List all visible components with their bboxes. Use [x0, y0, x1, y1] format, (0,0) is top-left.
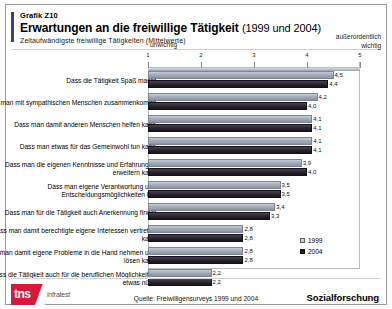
x-ticklabel-2: 2 [199, 52, 202, 58]
legend-swatch-icon-2004 [300, 249, 305, 254]
legend-label-1999: 1999 [308, 235, 322, 246]
bar-2004[interactable]: 4,4 [148, 80, 328, 88]
bar-2004[interactable]: 3,5 [148, 190, 281, 198]
footer-divider [11, 278, 381, 279]
x-tick-1 [148, 62, 149, 68]
chart-row: Dass man eigene Verantwortung und Entsch… [0, 180, 392, 202]
bar-group: 4,54,4 [148, 71, 360, 91]
page-title-main: Erwartungen an die freiwillige Tätigkeit [20, 21, 239, 35]
chart-row: Dass man etwas für das Gemeinwohl tun ka… [0, 136, 392, 158]
x-tick-5 [360, 62, 361, 68]
legend-item-2004: 2004 [300, 246, 322, 257]
x-ticklabel-5: 5 [358, 52, 361, 58]
page-title-years: (1999 und 2004) [242, 22, 321, 34]
x-ticklabel-4: 4 [305, 52, 308, 58]
bar-value-label: 4,5 [335, 72, 343, 78]
bar-1999[interactable]: 2,8 [148, 225, 243, 233]
axis-high-label-line1: außerordentlich [336, 33, 381, 42]
bar-2004[interactable]: 4,0 [148, 102, 307, 110]
bar-value-label: 4,1 [313, 125, 321, 131]
bar-value-label: 2,2 [213, 279, 221, 285]
legend: 1999 2004 [300, 235, 322, 257]
bar-2004[interactable]: 2,8 [148, 234, 243, 242]
bar-value-label: 3,5 [282, 182, 290, 188]
bar-group: 3,53,5 [148, 181, 360, 201]
bar-group: 2,22,2 [148, 269, 360, 289]
bar-1999[interactable]: 3,4 [148, 203, 275, 211]
bar-group: 3,43,3 [148, 203, 360, 223]
graphic-number: Grafik Z10 [20, 11, 58, 20]
chart-row: Dass man damit eigene Probleme in die Ha… [0, 246, 392, 268]
chart-row: Dass man die eigenen Kenntnisse und Erfa… [0, 158, 392, 180]
bar-value-label: 2,8 [244, 235, 252, 241]
brand-label: Sozialforschung [307, 292, 379, 303]
category-label: Dass man damit eigene Probleme in die Ha… [0, 249, 156, 265]
x-tick-3 [254, 62, 255, 68]
bar-2004[interactable]: 2,2 [148, 278, 212, 286]
bar-2004[interactable]: 4,1 [148, 124, 312, 132]
category-label: Dass man etwas für das Gemeinwohl tun ka… [0, 143, 156, 151]
bar-value-label: 4,0 [308, 103, 316, 109]
chart-page: Grafik Z10 Erwartungen an die freiwillig… [0, 0, 392, 309]
x-tick-4 [307, 62, 308, 68]
category-label: Dass man damit anderen Menschen helfen k… [0, 121, 156, 129]
category-label: Dass man für die Tätigkeit auch Anerkenn… [0, 209, 156, 217]
bar-group: 4,24,0 [148, 93, 360, 113]
bar-value-label: 4,1 [313, 138, 321, 144]
bar-value-label: 3,5 [282, 191, 290, 197]
chart-row: Dass man für die Tätigkeit auch Anerkenn… [0, 202, 392, 224]
bar-value-label: 3,4 [276, 204, 284, 210]
category-label: Dass man eigene Verantwortung und Entsch… [0, 183, 156, 199]
axis-high-label-line2: wichtig [336, 42, 381, 51]
header-divider [11, 49, 381, 50]
axis-high-label: außerordentlich wichtig [336, 33, 381, 50]
bar-1999[interactable]: 3,5 [148, 181, 281, 189]
chart-row: Dass man mit sympathischen Menschen zusa… [0, 92, 392, 114]
bar-value-label: 2,8 [244, 226, 252, 232]
bar-2004[interactable]: 2,8 [148, 256, 243, 264]
bar-group: 4,14,1 [148, 115, 360, 135]
bar-group: 2,82,8 [148, 225, 360, 245]
chart-row: Dass man damit berechtigte eigene Intere… [0, 224, 392, 246]
bar-1999[interactable]: 4,5 [148, 71, 334, 79]
bar-2004[interactable]: 3,3 [148, 212, 270, 220]
x-tick-2 [201, 62, 202, 68]
bar-value-label: 3,3 [271, 213, 279, 219]
bar-1999[interactable]: 2,2 [148, 269, 212, 277]
category-label: Dass man damit berechtigte eigene Intere… [0, 227, 156, 243]
category-label: Dass die Tätigkeit Spaß macht [0, 77, 156, 85]
bar-value-label: 2,2 [213, 270, 221, 276]
bar-value-label: 2,8 [244, 257, 252, 263]
bar-value-label: 4,1 [313, 116, 321, 122]
category-label: Dass man mit sympathischen Menschen zusa… [0, 99, 156, 107]
bar-value-label: 4,4 [329, 81, 337, 87]
bar-1999[interactable]: 4,1 [148, 115, 312, 123]
bar-1999[interactable]: 3,9 [148, 159, 302, 167]
bar-value-label: 4,1 [313, 147, 321, 153]
bar-1999[interactable]: 4,2 [148, 93, 318, 101]
bar-value-label: 3,9 [303, 160, 311, 166]
axis-low-label: unwichtig [150, 41, 177, 48]
bar-value-label: 2,8 [244, 248, 252, 254]
chart-row: Dass die Tätigkeit Spaß macht4,54,4 [0, 70, 392, 92]
chart-row: Dass man damit anderen Menschen helfen k… [0, 114, 392, 136]
bar-group: 4,14,1 [148, 137, 360, 157]
bar-2004[interactable]: 4,0 [148, 168, 307, 176]
bar-2004[interactable]: 4,1 [148, 146, 312, 154]
bar-group: 3,94,0 [148, 159, 360, 179]
legend-label-2004: 2004 [308, 246, 322, 257]
bar-rows: Dass die Tätigkeit Spaß macht4,54,4Dass … [0, 70, 392, 290]
legend-item-1999: 1999 [300, 235, 322, 246]
page-title: Erwartungen an die freiwillige Tätigkeit… [20, 21, 321, 35]
bar-group: 2,82,8 [148, 247, 360, 267]
bar-value-label: 4,0 [308, 169, 316, 175]
bar-1999[interactable]: 2,8 [148, 247, 243, 255]
title-accent-bar [11, 12, 14, 42]
category-label: Dass man die eigenen Kenntnisse und Erfa… [0, 161, 156, 177]
bar-value-label: 4,2 [319, 94, 327, 100]
x-ticklabel-3: 3 [252, 52, 255, 58]
legend-swatch-icon-1999 [300, 238, 305, 243]
bar-1999[interactable]: 4,1 [148, 137, 312, 145]
x-ticklabel-1: 1 [146, 52, 149, 58]
